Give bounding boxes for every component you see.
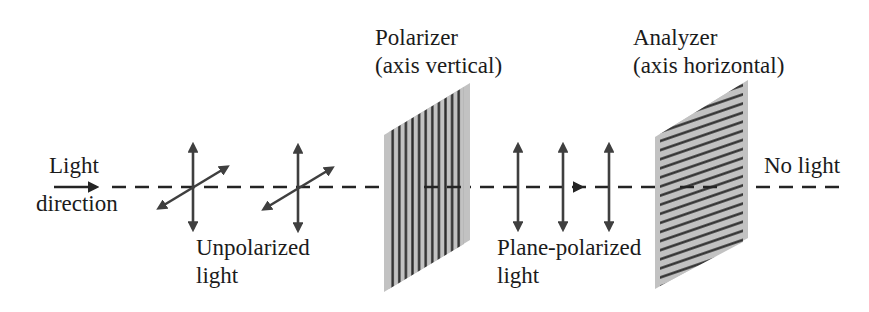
polarization-diagram: Light direction Unpolarized light Polari… <box>0 0 869 312</box>
analyzer-panel <box>655 78 750 292</box>
unpolarized-light-label: Unpolarized light <box>196 234 310 290</box>
polarizer-label: Polarizer (axis vertical) <box>375 24 502 80</box>
unpolarized-label-line1: Unpolarized <box>196 234 310 262</box>
no-light-label: No light <box>764 152 840 180</box>
plane-polarized-light-label: Plane-polarized light <box>497 234 641 290</box>
plane-polarized-label-line1: Plane-polarized <box>497 234 641 262</box>
plane-polarized-label-line2: light <box>497 262 641 290</box>
no-light-text: No light <box>764 152 840 180</box>
polarizer-label-line2: (axis vertical) <box>375 52 502 80</box>
analyzer-label: Analyzer (axis horizontal) <box>633 24 784 80</box>
polarizer-label-line1: Polarizer <box>375 24 502 52</box>
light-direction-label-line2: direction <box>36 190 118 218</box>
polarizer-panel <box>384 80 474 295</box>
light-direction-label-line1: Light <box>49 152 99 180</box>
direction-word: direction <box>36 190 118 218</box>
unpolarized-label-line2: light <box>196 262 310 290</box>
analyzer-label-line2: (axis horizontal) <box>633 52 784 80</box>
analyzer-horizontal-stripes <box>655 78 750 292</box>
analyzer-label-line1: Analyzer <box>633 24 784 52</box>
light-word: Light <box>49 152 99 180</box>
